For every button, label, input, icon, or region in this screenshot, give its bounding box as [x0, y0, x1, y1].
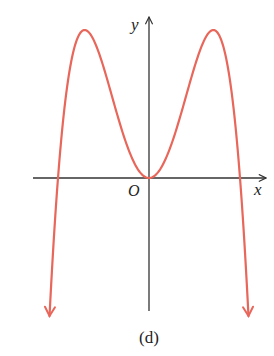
- x-axis-label: x: [253, 180, 262, 199]
- origin-label: O: [128, 182, 140, 199]
- function-graph: y x O (d): [0, 0, 274, 356]
- figure-caption: (d): [139, 328, 159, 347]
- y-axis-label: y: [129, 15, 139, 34]
